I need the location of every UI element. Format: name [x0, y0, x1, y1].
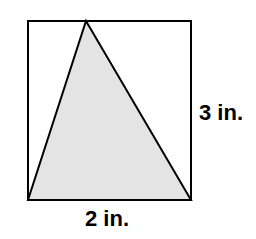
geometry-figure: 3 in. 2 in.: [0, 0, 256, 239]
height-dimension-label: 3 in.: [199, 102, 243, 124]
width-dimension-label: 2 in.: [85, 208, 129, 230]
